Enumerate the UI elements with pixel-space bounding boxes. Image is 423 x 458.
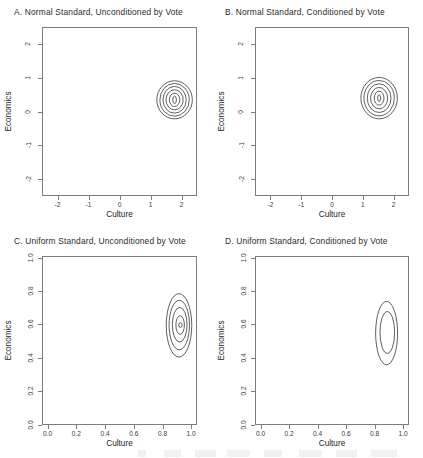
panel-c-ytick-4 xyxy=(38,391,42,392)
panel-a-title: A. Normal Standard, Unconditioned by Vot… xyxy=(14,7,183,17)
panel-c-ytick-1 xyxy=(38,291,42,292)
panel-a-xtick-0 xyxy=(58,196,59,200)
panel-c-axis-title-y: Economics xyxy=(2,256,14,425)
panel-c-ylabel-1: 0.8 xyxy=(27,286,34,295)
panel-b-xtick-3 xyxy=(363,196,364,200)
panel-a-xlabel-1: -1 xyxy=(86,201,92,208)
panel-d-xtick-1 xyxy=(289,425,290,429)
panel-d-ytick-5 xyxy=(251,425,255,426)
panel-a-xlabel-0: -2 xyxy=(55,201,61,208)
panel-d-ytick-4 xyxy=(251,391,255,392)
panel-a: A. Normal Standard, Unconditioned by Vot… xyxy=(0,0,211,229)
panel-d-ytick-1 xyxy=(251,291,255,292)
panel-a-ytick-0 xyxy=(38,44,42,45)
panel-b-ylabel-0: 2 xyxy=(237,42,244,46)
panel-c-axis-title-x: Culture xyxy=(42,439,197,448)
panel-d-xtick-0 xyxy=(261,425,262,429)
panel-d-axis-title-y: Economics xyxy=(215,256,227,425)
panel-b-ytick-1 xyxy=(251,78,255,79)
panel-d-title: D. Uniform Standard, Conditioned by Vote xyxy=(225,236,388,246)
panel-a-xtick-1 xyxy=(89,196,90,200)
panel-c-xtick-1 xyxy=(76,425,77,429)
panel-d-xlabel-4: 0.8 xyxy=(370,430,379,437)
panel-b-xtick-1 xyxy=(301,196,302,200)
panel-c-ylabel-4: 0.2 xyxy=(27,387,34,396)
panel-c-xlabel-5: 1.0 xyxy=(187,430,196,437)
panel-a-ytick-3 xyxy=(38,145,42,146)
panel-a-plot-area xyxy=(42,27,197,196)
panel-c-ylabel-5: 0.0 xyxy=(27,420,34,429)
panel-a-contours xyxy=(43,28,196,195)
panel-a-ylabel-0: 2 xyxy=(24,42,31,46)
panel-b-ylabel-2: 0 xyxy=(237,110,244,114)
panel-d-xlabel-3: 0.6 xyxy=(342,430,351,437)
panel-c-ytick-5 xyxy=(38,425,42,426)
panel-d-ylabel-1: 0.8 xyxy=(240,286,247,295)
panel-d-ytick-2 xyxy=(251,324,255,325)
panel-c-xtick-0 xyxy=(48,425,49,429)
panel-c-ytick-2 xyxy=(38,324,42,325)
panel-c-ylabel-2: 0.6 xyxy=(27,320,34,329)
panel-c-xtick-4 xyxy=(163,425,164,429)
panel-b-ylabel-4: -2 xyxy=(238,176,245,182)
panel-b: B. Normal Standard, Conditioned by Vote xyxy=(211,0,423,229)
panel-b-plot-area xyxy=(255,27,409,196)
panel-b-axis-title-y: Economics xyxy=(215,27,227,196)
panel-a-xlabel-3: 1 xyxy=(149,201,153,208)
panel-b-xlabel-1: -1 xyxy=(298,201,304,208)
panel-a-ylabel-1: 1 xyxy=(24,76,31,80)
panel-c-xlabel-2: 0.4 xyxy=(101,430,110,437)
panel-b-ytick-2 xyxy=(251,112,255,113)
panel-d-ytick-0 xyxy=(251,258,255,259)
panel-d-ylabel-5: 0.0 xyxy=(240,420,247,429)
panel-a-ylabel-2: 0 xyxy=(24,110,31,114)
panel-a-xlabel-4: 2 xyxy=(180,201,184,208)
panel-a-ytick-4 xyxy=(38,179,42,180)
panel-d-xtick-4 xyxy=(375,425,376,429)
panel-b-axis-title-y-text: Economics xyxy=(217,91,226,131)
panel-b-contours xyxy=(256,28,408,195)
panel-a-ytick-1 xyxy=(38,78,42,79)
panel-d-ylabel-0: 1.0 xyxy=(240,253,247,262)
panel-c-xlabel-0: 0.0 xyxy=(43,430,52,437)
panel-d-xlabel-1: 0.2 xyxy=(285,430,294,437)
panel-d-ylabel-2: 0.6 xyxy=(240,320,247,329)
panel-b-ylabel-1: 1 xyxy=(237,76,244,80)
panel-b-xlabel-3: 1 xyxy=(361,201,365,208)
panel-c-ytick-3 xyxy=(38,358,42,359)
panel-d-ytick-3 xyxy=(251,358,255,359)
panel-d-xtick-3 xyxy=(346,425,347,429)
panel-b-title: B. Normal Standard, Conditioned by Vote xyxy=(225,7,385,17)
panel-d-plot-area xyxy=(255,256,409,425)
panel-d-axis-title-y-text: Economics xyxy=(217,320,226,360)
panel-a-ylabel-3: -1 xyxy=(25,142,32,148)
panel-c-axis-title-y-text: Economics xyxy=(4,320,13,360)
panel-c-xlabel-1: 0.2 xyxy=(72,430,81,437)
panel-c-xtick-5 xyxy=(191,425,192,429)
panel-b-xtick-2 xyxy=(332,196,333,200)
panel-a-axis-title-y-text: Economics xyxy=(4,91,13,131)
panel-c: C. Uniform Standard, Unconditioned by Vo… xyxy=(0,229,211,458)
panel-d-axis-title-x: Culture xyxy=(255,439,409,448)
panel-c-xtick-3 xyxy=(134,425,135,429)
panel-c-ylabel-3: 0.4 xyxy=(27,353,34,362)
panel-a-ylabel-4: -2 xyxy=(25,176,32,182)
panel-a-xtick-2 xyxy=(120,196,121,200)
panel-d-ylabel-3: 0.4 xyxy=(240,353,247,362)
panel-b-ytick-4 xyxy=(251,179,255,180)
panel-a-xlabel-2: 0 xyxy=(118,201,122,208)
panel-b-ytick-3 xyxy=(251,145,255,146)
panel-d-xtick-2 xyxy=(318,425,319,429)
panel-c-contours xyxy=(43,257,196,424)
panel-d: D. Uniform Standard, Conditioned by Vote… xyxy=(211,229,423,458)
panel-b-axis-title-x: Culture xyxy=(255,210,409,219)
panel-d-xlabel-2: 0.4 xyxy=(313,430,322,437)
panel-c-title: C. Uniform Standard, Unconditioned by Vo… xyxy=(14,236,186,246)
panel-b-xtick-4 xyxy=(394,196,395,200)
panel-c-xlabel-3: 0.6 xyxy=(129,430,138,437)
panel-a-ytick-2 xyxy=(38,112,42,113)
panel-a-axis-title-y: Economics xyxy=(2,27,14,196)
panel-c-xlabel-4: 0.8 xyxy=(158,430,167,437)
panel-b-xlabel-0: -2 xyxy=(267,201,273,208)
panel-d-xtick-5 xyxy=(403,425,404,429)
